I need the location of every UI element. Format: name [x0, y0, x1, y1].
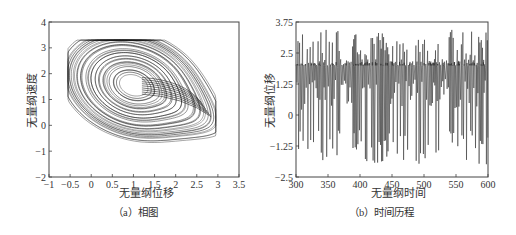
y-tick-label: 1 [41, 94, 46, 105]
y-tick-label: −1 [35, 146, 46, 157]
y-axis-label: 无量纲位移 [261, 70, 277, 130]
x-tick-label: −0.5 [61, 179, 79, 190]
y-tick-label: 3 [41, 42, 46, 53]
x-tick-label: 3 [215, 179, 220, 190]
y-tick-label: 0 [41, 120, 46, 131]
phase-portrait-panel: −1−0.500.511.522.533.5−2−101234 无量纲位移 无量… [0, 0, 258, 235]
y-tick-label: 1.25 [276, 79, 294, 90]
x-tick-label: 550 [449, 179, 464, 190]
y-tick-label: 2 [41, 68, 46, 79]
time-series-line [296, 30, 488, 164]
x-tick-label: 2.5 [191, 179, 204, 190]
x-tick-label: 0.5 [106, 179, 119, 190]
y-tick-label: −1.25 [270, 141, 293, 152]
y-axis-label: 无量纲速度 [23, 70, 39, 130]
phase-trajectory [68, 40, 216, 142]
figure-caption: （b）时间历程 [349, 204, 414, 219]
y-tick-label: 2.5 [281, 48, 294, 59]
x-tick-label: 400 [353, 179, 368, 190]
y-tick-label: 0 [288, 110, 293, 121]
x-tick-label: 600 [481, 179, 496, 190]
y-tick-label: −2 [35, 172, 46, 183]
figure-caption: （a）相图 [113, 204, 158, 219]
y-tick-label: −2.5 [275, 172, 293, 183]
x-tick-label: 0 [89, 179, 94, 190]
x-axis-label: 无量纲时间 [371, 184, 426, 200]
y-tick-label: 4 [41, 17, 46, 28]
x-tick-label: 3.5 [233, 179, 246, 190]
y-tick-label: 3.75 [276, 17, 294, 28]
x-tick-label: 350 [321, 179, 336, 190]
x-axis-label: 无量纲位移 [119, 184, 174, 200]
time-history-panel: 300350400450500550600−2.5−1.2501.252.53.… [258, 0, 516, 235]
